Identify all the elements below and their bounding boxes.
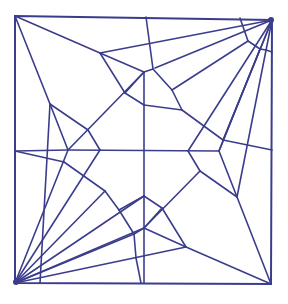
crease-lines xyxy=(15,16,272,284)
crease-line xyxy=(144,208,162,228)
crease-line xyxy=(144,69,153,72)
crease-line xyxy=(144,196,162,208)
crease-line xyxy=(188,151,200,171)
crease-line xyxy=(15,150,100,283)
crease-line xyxy=(153,69,172,90)
crease-pattern-diagram xyxy=(0,0,288,304)
crease-line xyxy=(125,93,144,105)
bottom-left-vertex xyxy=(13,279,19,285)
crease-line xyxy=(68,150,219,151)
top-right-vertex xyxy=(268,17,274,23)
crease-line xyxy=(119,210,134,234)
crease-line xyxy=(64,162,105,191)
crease-line xyxy=(144,105,182,110)
crease-line xyxy=(172,41,248,90)
crease-line xyxy=(172,90,182,110)
crease-line xyxy=(219,49,260,151)
crease-line xyxy=(15,234,134,283)
crease-line xyxy=(68,72,144,150)
crease-line xyxy=(136,258,141,283)
crease-line xyxy=(15,151,64,162)
crease-line xyxy=(105,191,119,210)
crease-line xyxy=(182,110,223,140)
crease-line xyxy=(134,234,136,258)
crease-pattern-svg xyxy=(0,0,288,304)
crease-line xyxy=(260,49,266,50)
crease-line xyxy=(15,191,105,283)
crease-line xyxy=(15,150,68,151)
crease-line xyxy=(88,130,100,150)
